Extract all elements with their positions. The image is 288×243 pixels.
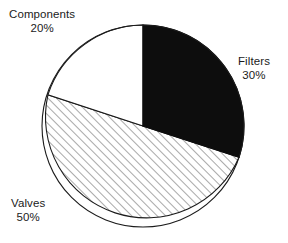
pie-label-valves-name: Valves bbox=[11, 197, 45, 211]
pie-label-components-name: Components bbox=[9, 8, 75, 22]
pie-chart: Components 20% Filters 30% Valves 50% bbox=[0, 0, 288, 243]
pie-label-components-percent: 20% bbox=[9, 22, 75, 36]
pie-label-filters-name: Filters bbox=[238, 55, 270, 69]
pie-label-components: Components 20% bbox=[9, 8, 75, 35]
pie-label-valves-percent: 50% bbox=[11, 211, 45, 225]
pie-label-valves: Valves 50% bbox=[11, 197, 45, 224]
pie-label-filters: Filters 30% bbox=[238, 55, 270, 82]
pie-label-filters-percent: 30% bbox=[238, 69, 270, 83]
